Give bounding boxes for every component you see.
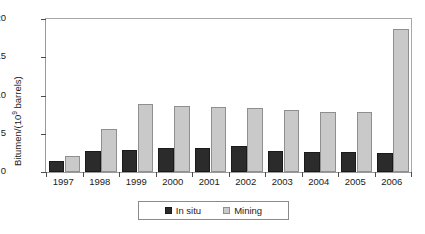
plot-inner [46, 19, 411, 172]
bar-in-situ-2000 [158, 148, 174, 172]
legend-item-in-situ: In situ [165, 206, 201, 216]
x-axis-tick-label: 2006 [370, 177, 414, 187]
y-axis-title-exponent: 9 [11, 111, 18, 115]
bar-in-situ-2003 [268, 151, 284, 172]
y-axis-tick [41, 134, 46, 135]
legend-swatch-icon [223, 207, 230, 214]
x-axis-tick [411, 172, 412, 177]
y-axis-title-prefix: Bitumen/(10 [12, 115, 23, 166]
bar-in-situ-2002 [231, 146, 247, 172]
bar-in-situ-2005 [341, 152, 357, 172]
y-axis-tick-label: 10 [0, 90, 6, 100]
x-axis-tick [83, 172, 84, 177]
plot-area [45, 18, 412, 173]
x-axis-tick [338, 172, 339, 177]
x-axis-tick [192, 172, 193, 177]
x-axis-tick [119, 172, 120, 177]
bar-mining-2006 [393, 29, 409, 172]
x-axis-tick [156, 172, 157, 177]
y-axis-title-suffix: barrels) [12, 76, 23, 111]
x-axis-tick [229, 172, 230, 177]
chart-figure: Bitumen/(109 barrels) 05101520 199719981… [0, 0, 425, 234]
chart-legend: In situMining [138, 201, 289, 220]
y-axis-tick [41, 19, 46, 20]
legend-swatch-icon [165, 207, 172, 214]
x-axis-tick [265, 172, 266, 177]
bar-mining-2005 [357, 112, 373, 172]
legend-label: In situ [176, 206, 201, 216]
x-axis-tick [302, 172, 303, 177]
bar-in-situ-1997 [49, 161, 65, 172]
bar-mining-1997 [65, 156, 81, 172]
legend-label: Mining [234, 206, 262, 216]
bar-in-situ-2001 [195, 148, 211, 172]
y-axis-tick-label: 5 [0, 128, 6, 138]
bar-mining-2003 [284, 110, 300, 172]
bar-in-situ-1999 [122, 150, 138, 172]
bar-mining-2002 [247, 108, 263, 172]
bar-mining-1998 [101, 129, 117, 172]
y-axis-tick-label: 20 [0, 13, 6, 23]
x-axis-tick [46, 172, 47, 177]
bar-mining-1999 [138, 104, 154, 172]
x-axis-tick [375, 172, 376, 177]
bar-in-situ-1998 [85, 151, 101, 172]
bar-mining-2004 [320, 112, 336, 172]
y-axis-tick-label: 15 [0, 51, 6, 61]
y-axis-tick-label: 0 [0, 166, 6, 176]
y-axis-tick [41, 57, 46, 58]
legend-item-mining: Mining [223, 206, 262, 216]
bar-in-situ-2004 [304, 152, 320, 172]
bar-mining-2001 [211, 107, 227, 172]
bar-in-situ-2006 [377, 153, 393, 172]
y-axis-tick [41, 96, 46, 97]
bar-mining-2000 [174, 106, 190, 172]
